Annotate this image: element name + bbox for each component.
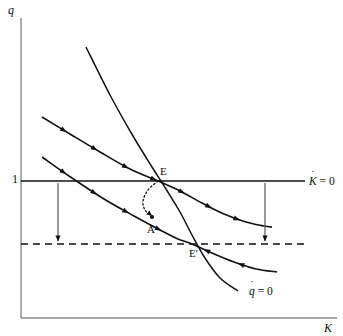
saddle-path-through-E [42, 117, 272, 227]
y-tick-label-1: 1 [12, 173, 18, 185]
diagram-canvas [0, 0, 343, 336]
shift-arrows [58, 183, 265, 241]
point-label-E: E [160, 166, 167, 177]
k-equation-rest: = 0 [317, 175, 335, 187]
jump-path-E-to-A [143, 181, 158, 216]
point-label-A: A [147, 224, 155, 235]
axis-frame [21, 18, 337, 318]
y-axis-label: q [8, 4, 14, 16]
dot-accent-k: ˙ [311, 169, 315, 180]
k-dot-symbol: ˙K [309, 176, 317, 188]
direction-arrowheads [59, 126, 245, 268]
q-dot-symbol: ˙q [249, 286, 255, 298]
point-label-E-prime: E′ [189, 248, 198, 259]
x-axis-label: K [324, 322, 332, 334]
phase-diagram-figure: q K 1 ˙K = 0 ˙q = 0 E A E′ [0, 0, 343, 336]
q-equation-rest: = 0 [255, 285, 273, 297]
k-dot-zero-label: ˙K = 0 [309, 176, 335, 188]
q-dot-zero-label: ˙q = 0 [249, 286, 273, 298]
dot-accent-q: ˙ [250, 279, 254, 290]
equilibrium-point-dots [150, 215, 154, 219]
